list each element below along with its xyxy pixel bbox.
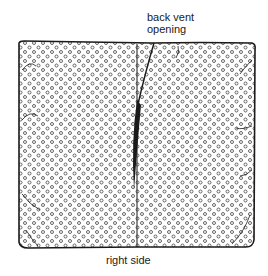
label-line-1: back vent xyxy=(147,11,194,23)
right-side-label: right side xyxy=(106,254,151,266)
pillow-illustration xyxy=(0,0,268,276)
vent-opening-label: back vent opening xyxy=(147,11,194,35)
label-line-2: opening xyxy=(147,23,194,35)
